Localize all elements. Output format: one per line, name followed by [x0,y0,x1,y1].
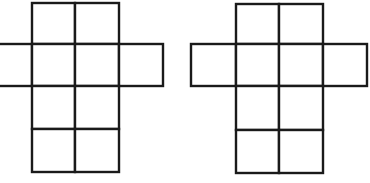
grid-cell [236,86,279,130]
grid-cell [279,44,323,86]
grid-cell [279,86,323,130]
grid-cell [279,4,323,44]
grid-cell [75,44,119,86]
diagram-canvas [0,0,370,183]
grid-cell [236,4,279,44]
grid-cell [75,3,119,44]
net-left [0,3,163,172]
figures-layer [0,3,367,173]
grid-cell [32,3,75,44]
grid-cell [119,44,163,86]
grid-cell [236,44,279,86]
grid-cell [75,129,119,172]
grid-cell [32,44,75,86]
grid-cell [32,129,75,172]
grid-cell [236,130,279,173]
grid-cell [32,86,75,129]
grid-cell [323,44,367,86]
net-right [191,4,367,173]
grid-cell [191,44,236,86]
grid-cell [75,86,119,129]
grid-cell [0,44,32,86]
grid-cell [279,130,323,173]
